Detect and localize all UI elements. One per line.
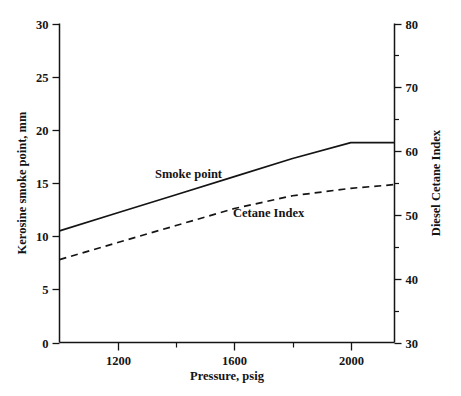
- x-axis-ticks: [119, 343, 352, 351]
- right-tick-label: 30: [406, 337, 419, 351]
- right-axis-tick-labels: 304050607080: [406, 18, 419, 351]
- left-tick-label: 25: [36, 71, 49, 85]
- left-tick-label: 0: [42, 337, 48, 351]
- x-tick-label: 2000: [339, 354, 364, 368]
- chart-container: 051015202530 304050607080 120016002000 S…: [0, 0, 461, 396]
- line-chart: 051015202530 304050607080 120016002000 S…: [0, 0, 461, 396]
- annotation-cetane-index: Cetane Index: [233, 206, 305, 220]
- series-layer: [60, 143, 395, 260]
- right-tick-label: 70: [406, 81, 419, 95]
- right-axis-title: Diesel Cetane Index: [429, 129, 443, 236]
- left-tick-label: 20: [36, 124, 49, 138]
- x-axis-tick-labels: 120016002000: [106, 354, 364, 368]
- right-tick-label: 80: [406, 18, 419, 32]
- left-tick-label: 10: [36, 230, 49, 244]
- left-tick-label: 5: [42, 283, 48, 297]
- series-line-cetane-index: [60, 185, 395, 260]
- left-tick-label: 15: [36, 177, 49, 191]
- left-axis-title: Kerosine smoke point, mm: [15, 111, 29, 254]
- left-axis-tick-labels: 051015202530: [36, 18, 49, 351]
- annotation-smoke-point: Smoke point: [155, 167, 223, 181]
- right-tick-label: 60: [406, 145, 419, 159]
- left-tick-label: 30: [36, 18, 49, 32]
- left-axis-ticks: [53, 25, 60, 344]
- right-tick-label: 50: [406, 209, 419, 223]
- right-tick-label: 40: [406, 273, 419, 287]
- series-line-smoke-point: [60, 143, 395, 231]
- x-tick-label: 1200: [106, 354, 131, 368]
- x-axis-title: Pressure, psig: [190, 369, 265, 383]
- x-tick-label: 1600: [222, 354, 247, 368]
- right-axis-ticks: [395, 25, 402, 344]
